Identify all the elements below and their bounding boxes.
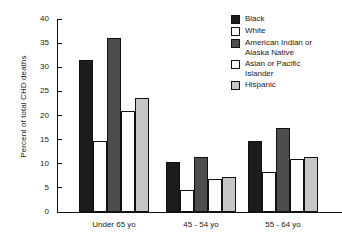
bar <box>180 190 194 212</box>
legend-item: American Indian orAlaska Native <box>231 38 341 57</box>
legend-label: White <box>245 26 265 36</box>
legend-label: Black <box>245 14 265 24</box>
bar <box>276 128 290 212</box>
legend-item: White <box>231 26 341 36</box>
y-tick-mark <box>57 19 62 20</box>
bar <box>208 179 222 212</box>
y-tick-label: 30 <box>40 62 49 71</box>
y-tick-label: 25 <box>40 86 49 95</box>
legend-item: Asian or PacificIslander <box>231 59 341 78</box>
y-tick-label: 15 <box>40 135 49 144</box>
y-tick-mark <box>57 43 62 44</box>
x-axis-label: Under 65 yo <box>65 220 163 229</box>
bar <box>135 98 149 212</box>
bar <box>194 157 208 212</box>
y-tick-label: 20 <box>40 111 49 120</box>
bar <box>166 162 180 212</box>
bar <box>79 60 93 212</box>
plot-area: 0510152025303540 Under 65 yo45 - 54 yo55… <box>57 19 221 213</box>
y-tick-mark <box>57 115 62 116</box>
legend-swatch <box>231 27 240 36</box>
legend-item: Hispanic <box>231 80 341 90</box>
y-tick-mark <box>57 212 62 213</box>
bar <box>290 159 304 212</box>
bar <box>93 141 107 212</box>
y-tick-mark <box>57 139 62 140</box>
legend-label: Asian or PacificIslander <box>245 59 300 78</box>
bar <box>121 111 135 212</box>
y-tick-label: 5 <box>45 183 49 192</box>
legend-label: Hispanic <box>245 80 276 90</box>
y-tick-label: 40 <box>40 14 49 23</box>
y-tick-label: 0 <box>45 207 49 216</box>
y-axis-title: Percent of total CHD deaths <box>19 22 28 192</box>
legend-swatch <box>231 60 240 69</box>
chart-legend: BlackWhiteAmerican Indian orAlaska Nativ… <box>231 14 341 92</box>
legend-swatch <box>231 81 240 90</box>
legend-swatch <box>231 39 240 48</box>
x-axis-label: 55 - 64 yo <box>234 220 332 229</box>
chart-figure: Percent of total CHD deaths 051015202530… <box>0 0 342 248</box>
y-tick-label: 35 <box>40 38 49 47</box>
y-tick-mark <box>57 67 62 68</box>
legend-item: Black <box>231 14 341 24</box>
y-tick-mark <box>57 91 62 92</box>
bar <box>262 172 276 212</box>
legend-swatch <box>231 15 240 24</box>
y-tick-mark <box>57 163 62 164</box>
bar <box>248 141 262 212</box>
legend-label: American Indian orAlaska Native <box>245 38 312 57</box>
x-axis-line <box>57 212 342 213</box>
bar-group <box>166 19 236 212</box>
bar <box>107 38 121 212</box>
bar <box>304 157 318 212</box>
bar <box>222 177 236 212</box>
y-tick-mark <box>57 187 62 188</box>
y-tick-label: 10 <box>40 159 49 168</box>
bar-group <box>79 19 149 212</box>
y-axis-line <box>57 19 58 213</box>
